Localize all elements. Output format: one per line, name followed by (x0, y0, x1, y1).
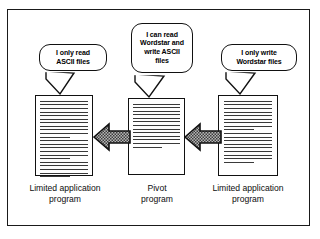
document-text-line (40, 112, 87, 113)
document-text-line (40, 162, 87, 163)
document-text-line (224, 151, 273, 152)
document-text-line (224, 140, 273, 141)
left-document-lines (40, 101, 87, 180)
center-balloon-text: I can read Wordstar and write ASCII file… (140, 31, 184, 65)
document-text-line (40, 173, 87, 174)
document-text-line (224, 115, 273, 116)
document-text-line (40, 147, 87, 148)
left-caption-line1: Limited application (18, 183, 112, 194)
document-text-line (133, 118, 179, 119)
document-text-line (224, 112, 273, 113)
document-text-line (224, 122, 273, 123)
right-document (218, 95, 278, 176)
document-text-line (133, 136, 179, 137)
document-text-line (40, 158, 69, 159)
document-text-line (40, 165, 87, 166)
document-text-line (40, 108, 87, 109)
document-text-line (133, 129, 179, 130)
document-text-line (40, 137, 69, 138)
left-caption-line2: program (18, 194, 112, 205)
right-balloon: I only write Wordstar files (221, 44, 297, 71)
right-balloon-tail (224, 69, 258, 97)
document-text-line (224, 144, 273, 145)
left-balloon: I only read ASCII files (39, 44, 107, 71)
center-document-caption: Pivot program (123, 183, 191, 205)
document-text-line (40, 104, 87, 105)
document-text-line (224, 129, 254, 130)
document-text-line (224, 162, 254, 163)
document-text-line (40, 144, 87, 145)
left-document (35, 95, 93, 176)
document-text-line (40, 119, 87, 120)
center-balloon-tail (133, 72, 167, 100)
document-text-line (40, 169, 87, 170)
document-text-line (133, 111, 179, 112)
document-text-line (224, 155, 273, 156)
document-text-line (40, 133, 87, 134)
document-text-line (224, 119, 273, 120)
diagram-canvas: I only read ASCII files I can read Words… (0, 0, 320, 239)
document-text-line (224, 108, 273, 109)
center-document (128, 98, 185, 175)
document-text-line (133, 114, 179, 115)
arrow-right-to-center (183, 120, 223, 154)
document-text-line (133, 147, 162, 148)
document-text-line (40, 122, 87, 123)
document-text-line (40, 176, 69, 177)
arrow-center-to-left (92, 120, 132, 154)
document-text-line (224, 158, 273, 159)
document-text-line (224, 104, 273, 105)
document-text-line (224, 133, 273, 134)
left-balloon-tail (44, 69, 78, 97)
center-balloon: I can read Wordstar and write ASCII file… (131, 23, 193, 73)
right-document-lines (224, 101, 273, 166)
left-balloon-text: I only read ASCII files (56, 49, 90, 66)
right-caption-line2: program (200, 194, 296, 205)
center-caption-line1: Pivot (123, 183, 191, 194)
document-text-line (40, 155, 87, 156)
right-caption-line1: Limited application (200, 183, 296, 194)
document-text-line (133, 143, 179, 144)
document-text-line (40, 140, 87, 141)
document-text-line (133, 132, 179, 133)
left-document-caption: Limited application program (18, 183, 112, 205)
document-text-line (224, 137, 273, 138)
document-text-line (133, 139, 179, 140)
document-text-line (133, 104, 179, 105)
document-text-line (40, 115, 87, 116)
document-text-line (40, 129, 87, 130)
document-text-line (224, 101, 273, 102)
right-document-caption: Limited application program (200, 183, 296, 205)
document-text-line (40, 101, 87, 102)
document-text-line (40, 126, 87, 127)
document-text-line (40, 151, 87, 152)
right-balloon-text: I only write Wordstar files (236, 49, 281, 66)
document-text-line (224, 126, 273, 127)
document-text-line (224, 147, 273, 148)
center-document-lines (133, 104, 179, 151)
center-caption-line2: program (123, 194, 191, 205)
document-text-line (133, 107, 179, 108)
document-text-line (133, 121, 179, 122)
document-text-line (133, 125, 179, 126)
